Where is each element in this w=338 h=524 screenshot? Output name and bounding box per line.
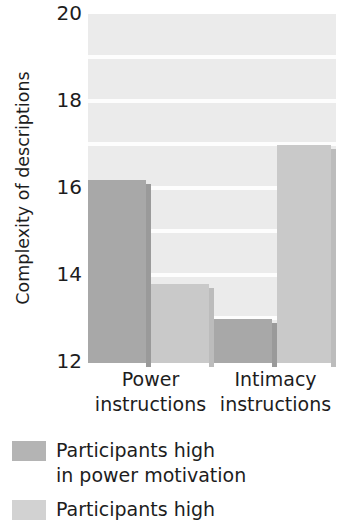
y-tick-label-20: 20: [34, 3, 82, 23]
bar-power-instructions-power-motivation[interactable]: [88, 180, 146, 363]
legend-item-intimacy-motivation[interactable]: Participants high: [12, 497, 338, 522]
legend-swatch-icon: [12, 441, 46, 461]
x-tick-label-line2: instructions: [213, 392, 338, 417]
bar-intimacy-instructions-intimacy-motivation[interactable]: [277, 145, 331, 363]
chart-legend: Participants high in power motivation Pa…: [12, 438, 338, 524]
legend-label-line1: Participants high: [56, 439, 215, 461]
legend-label-line2: in power motivation: [56, 463, 246, 488]
gridline: [88, 99, 336, 103]
legend-label-line1: Participants high: [56, 498, 215, 520]
y-tick-label-16: 16: [34, 177, 82, 197]
bar-face: [277, 145, 331, 363]
x-axis-tick-labels: Power instructions Intimacy instructions: [88, 367, 338, 419]
bar-intimacy-instructions-power-motivation[interactable]: [214, 319, 272, 363]
x-tick-label-power-instructions: Power instructions: [88, 367, 213, 419]
bar-face: [151, 284, 209, 363]
x-tick-label-line1: Intimacy: [234, 368, 316, 390]
legend-swatch-icon: [12, 500, 46, 520]
y-axis-title: Complexity of descriptions: [13, 8, 33, 368]
y-tick-label-14: 14: [34, 264, 82, 284]
legend-item-label: Participants high in power motivation: [56, 438, 246, 488]
plot-area: [88, 14, 336, 363]
legend-item-label: Participants high: [56, 497, 215, 522]
legend-item-power-motivation[interactable]: Participants high in power motivation: [12, 438, 338, 488]
y-tick-label-18: 18: [34, 90, 82, 110]
y-tick-label-12: 12: [34, 351, 82, 371]
x-tick-label-line1: Power: [122, 368, 179, 390]
bar-face: [88, 180, 146, 363]
x-tick-label-line2: instructions: [88, 392, 213, 417]
x-tick-label-intimacy-instructions: Intimacy instructions: [213, 367, 338, 419]
bar-face: [214, 319, 272, 363]
bar-shadow: [331, 149, 336, 367]
bar-power-instructions-intimacy-motivation[interactable]: [151, 284, 209, 363]
gridline: [88, 55, 336, 59]
